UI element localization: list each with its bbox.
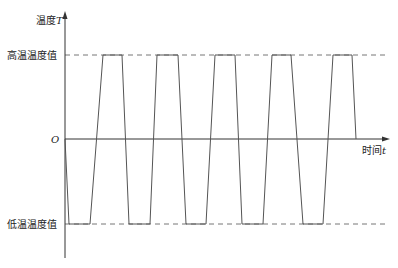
- low-level-label: 低温温度值: [7, 218, 57, 230]
- y-axis-arrow-icon: [63, 11, 68, 19]
- temperature-cycle-diagram: 温度T 高温温度值 O 低温温度值 时间t: [0, 0, 398, 268]
- high-level-label: 高温温度值: [7, 49, 57, 61]
- x-axis-arrow-icon: [382, 137, 390, 142]
- x-axis-label: 时间t: [362, 144, 387, 156]
- origin-label: O: [51, 134, 59, 145]
- y-axis-label: 温度T: [36, 14, 64, 26]
